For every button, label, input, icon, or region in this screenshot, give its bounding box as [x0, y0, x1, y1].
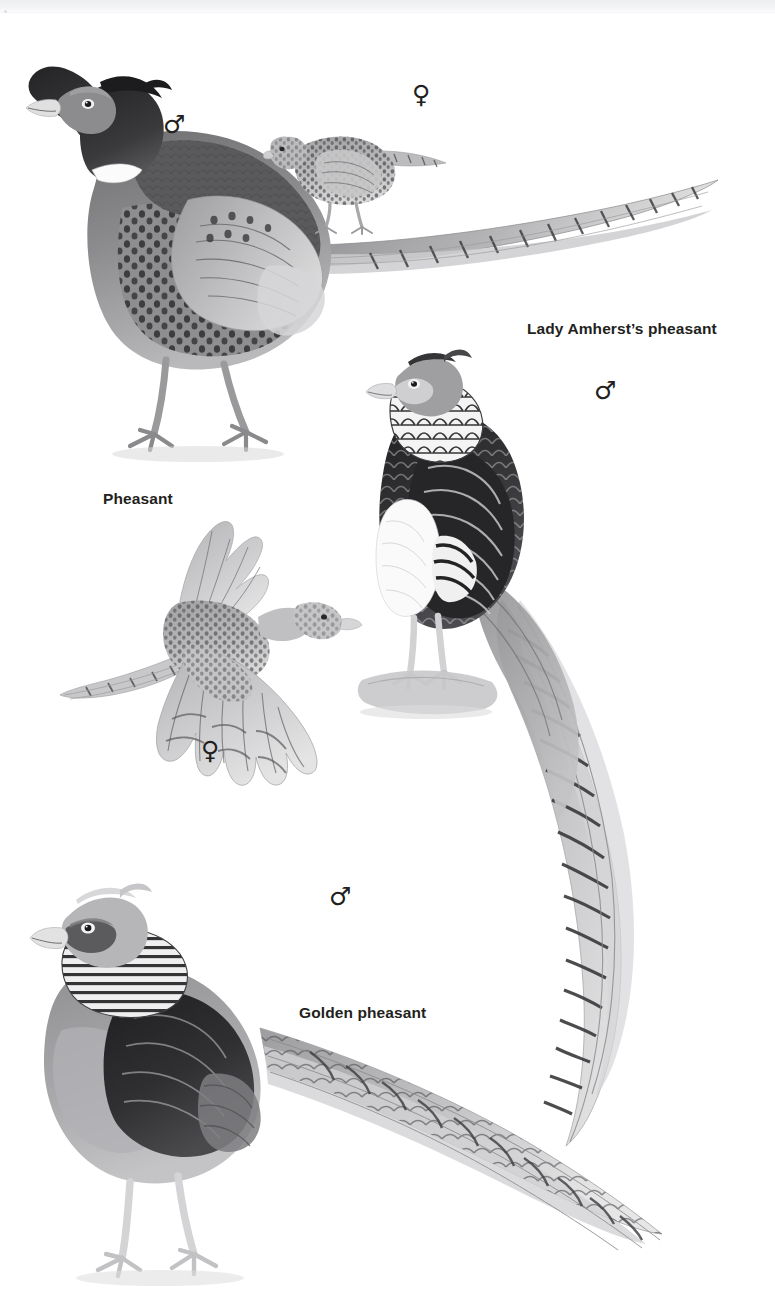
label-golden-pheasant: Golden pheasant — [299, 1004, 426, 1022]
illustration-golden-pheasant-male — [10, 820, 710, 1290]
male-symbol-lady-amhersts-pheasant: ♂ — [594, 378, 616, 403]
header-divider — [0, 12, 775, 13]
label-lady-amhersts-pheasant: Lady Amherst’s pheasant — [527, 320, 717, 338]
page-header-band — [0, 0, 775, 12]
illustration-pheasant-female-in-flight — [60, 505, 380, 795]
illustration-pheasant-female — [262, 105, 452, 235]
female-symbol-pheasant: ♀ — [412, 82, 430, 107]
page-edge-mark — [4, 10, 7, 13]
label-pheasant: Pheasant — [103, 490, 173, 508]
male-symbol-golden-pheasant: ♂ — [329, 884, 351, 909]
page-header-text — [0, 0, 775, 6]
illustration-plate-page: Lady Amherst’s pheasant Pheasant Golden … — [0, 0, 775, 1304]
female-symbol-pheasant-in-flight: ♀ — [201, 738, 219, 763]
male-symbol-pheasant: ♂ — [163, 112, 185, 137]
